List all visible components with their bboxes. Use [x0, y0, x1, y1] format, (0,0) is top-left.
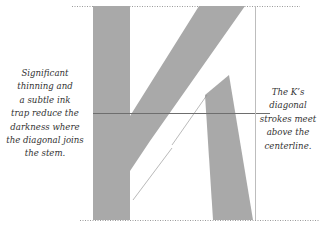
right-annotation: The K’s diagonal strokes meet above the … — [257, 86, 319, 153]
left-annotation: Significant thinning and a subtle ink tr… — [0, 67, 90, 161]
left-annotation-line: Significant — [0, 67, 90, 80]
right-annotation-line: above the — [257, 126, 319, 139]
right-annotation-line: diagonal — [257, 99, 319, 112]
left-annotation-line: the stem. — [0, 147, 90, 160]
left-annotation-line: the diagonal joins — [0, 134, 90, 147]
left-annotation-line: darkness where — [0, 121, 90, 134]
left-annotation-line: thinning and — [0, 80, 90, 93]
right-annotation-line: The K’s — [257, 86, 319, 99]
left-annotation-line: trap reduce the — [0, 107, 90, 120]
right-annotation-line: strokes meet — [257, 113, 319, 126]
k-lower-diagonal — [205, 75, 253, 220]
left-annotation-line: a subtle ink — [0, 94, 90, 107]
right-annotation-line: centerline. — [257, 140, 319, 153]
